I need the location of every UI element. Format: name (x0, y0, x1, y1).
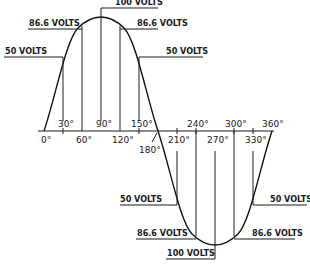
label-86-volts-right-bottom: 86.6 VOLTS (252, 228, 303, 238)
label-50-volts-left-bottom: 50 VOLTS (120, 194, 162, 204)
label-100-volts-bottom: 100 VOLTS (167, 248, 215, 258)
sine-wave-diagram: 30° 90° 150° 240° 300° 360° 0° 60° 120° … (0, 0, 310, 268)
deg-label-330: 330° (245, 135, 267, 145)
deg-label-0: 0° (41, 135, 51, 145)
label-100-volts-top: 100 VOLTS (115, 0, 163, 7)
label-86-volts-left-top: 86.6 VOLTS (29, 18, 80, 28)
deg-label-360: 360° (262, 119, 284, 129)
deg-label-300: 300° (225, 119, 247, 129)
label-86-volts-right-top: 86.6 VOLTS (137, 18, 188, 28)
label-50-volts-left-top: 50 VOLTS (5, 46, 47, 56)
deg-label-30: 30° (58, 119, 74, 129)
deg-label-120: 120° (112, 135, 134, 145)
label-50-volts-right-bottom: 50 VOLTS (270, 194, 310, 204)
deg-label-270: 270° (207, 135, 229, 145)
leader-180 (152, 133, 157, 142)
deg-label-210: 210° (168, 135, 190, 145)
label-86-volts-left-bottom: 86.6 VOLTS (137, 228, 188, 238)
deg-label-240: 240° (187, 119, 209, 129)
label-50-volts-right-top: 50 VOLTS (166, 46, 208, 56)
deg-label-180: 180° (139, 145, 161, 155)
deg-label-150: 150° (131, 119, 153, 129)
deg-label-60: 60° (76, 135, 92, 145)
deg-label-90: 90° (96, 119, 112, 129)
